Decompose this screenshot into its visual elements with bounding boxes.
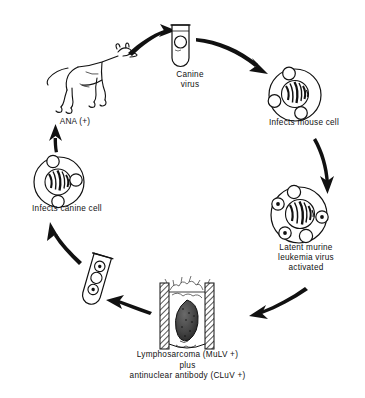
virion-circle bbox=[47, 155, 59, 167]
virion-circle bbox=[268, 95, 281, 108]
label-infects-mouse-cell: Infects mouse cell bbox=[244, 118, 364, 128]
cycle-diagram bbox=[0, 0, 365, 398]
virion-circle-dotted bbox=[316, 211, 328, 223]
virion-circle bbox=[70, 174, 82, 186]
test-tube-icon bbox=[171, 25, 191, 67]
virion-circle-empty bbox=[299, 229, 312, 242]
virion-circle bbox=[283, 67, 296, 80]
virion-circle-dotted bbox=[279, 227, 291, 239]
label-canine-virus: Canine virus bbox=[140, 70, 240, 90]
virion-circle bbox=[175, 36, 187, 48]
node-canine-virus[interactable] bbox=[171, 25, 191, 67]
label-lymphosarcoma: Lymphosarcoma (MuLV +) plus antinuclear … bbox=[80, 350, 295, 382]
label-ana-positive: ANA (+) bbox=[20, 117, 130, 127]
virion-circle-dotted bbox=[272, 198, 284, 210]
virion-circle-empty bbox=[287, 185, 300, 198]
label-infects-canine-cell: Infects canine cell bbox=[2, 204, 132, 214]
label-latent-murine: Latent murine leukemia virus activated bbox=[252, 243, 360, 274]
